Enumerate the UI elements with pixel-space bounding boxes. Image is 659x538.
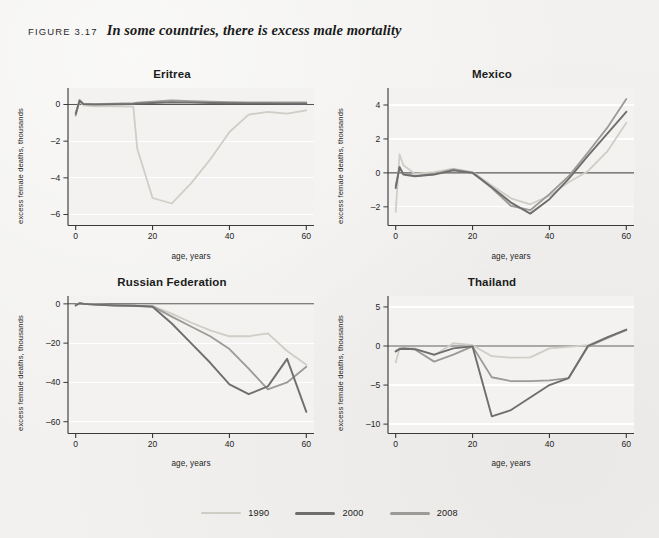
panel-thailand: Thailand excess female deaths, thousands… — [332, 270, 652, 478]
svg-text:20: 20 — [468, 231, 478, 241]
svg-text:0: 0 — [393, 439, 398, 449]
figure-container: FIGURE 3.17 In some countries, there is … — [0, 0, 659, 538]
panel-title: Thailand — [332, 276, 652, 288]
legend-item[interactable]: 1990 — [201, 508, 269, 518]
svg-text:40: 40 — [545, 231, 555, 241]
figure-number: FIGURE 3.17 — [28, 26, 98, 37]
svg-text:40: 40 — [545, 439, 555, 449]
svg-text:60: 60 — [302, 231, 312, 241]
svg-text:–5: –5 — [371, 379, 381, 389]
x-axis-label: age, years — [388, 459, 634, 468]
legend-label: 2008 — [437, 508, 458, 518]
figure-title: In some countries, there is excess male … — [107, 22, 402, 39]
x-axis-label: age, years — [388, 252, 634, 261]
x-axis-label: age, years — [68, 252, 314, 261]
svg-text:0: 0 — [376, 340, 381, 350]
figure-caption: FIGURE 3.17 In some countries, there is … — [28, 22, 402, 39]
svg-text:–40: –40 — [46, 377, 61, 387]
panel-title: Mexico — [332, 68, 652, 80]
svg-text:0: 0 — [376, 168, 381, 178]
svg-text:60: 60 — [302, 439, 312, 449]
svg-text:40: 40 — [225, 439, 235, 449]
svg-text:60: 60 — [622, 439, 632, 449]
legend-item[interactable]: 2008 — [390, 508, 458, 518]
svg-text:20: 20 — [468, 439, 478, 449]
svg-text:–6: –6 — [51, 209, 61, 219]
legend-label: 1990 — [248, 508, 269, 518]
panel-title: Russian Federation — [12, 276, 332, 288]
svg-text:0: 0 — [73, 231, 78, 241]
svg-text:0: 0 — [73, 439, 78, 449]
svg-text:20: 20 — [148, 231, 158, 241]
y-axis-label: excess female deaths, thousands — [336, 315, 345, 431]
plot-svg: 0–2–4–60204060 — [68, 88, 314, 226]
plot-area: 0–2–4–60204060 — [68, 88, 314, 226]
panel-eritrea: Eritrea excess female deaths, thousands … — [12, 62, 332, 270]
panel-title: Eritrea — [12, 68, 332, 80]
svg-text:60: 60 — [622, 231, 632, 241]
panel-russian-federation: Russian Federation excess female deaths,… — [12, 270, 332, 478]
svg-text:–2: –2 — [371, 202, 381, 212]
plot-area: 420–20204060 — [388, 88, 634, 226]
svg-text:0: 0 — [56, 99, 61, 109]
plot-area: 0–20–40–600204060 — [68, 296, 314, 434]
legend-line-swatch — [295, 512, 335, 515]
svg-text:–4: –4 — [51, 173, 61, 183]
svg-text:–60: –60 — [46, 416, 61, 426]
y-axis-label: excess female deaths, thousands — [16, 315, 25, 431]
legend-line-swatch — [201, 512, 241, 514]
legend-label: 2000 — [342, 508, 363, 518]
svg-text:0: 0 — [56, 298, 61, 308]
svg-text:0: 0 — [393, 231, 398, 241]
chart-legend: 1990 2000 2008 — [0, 508, 659, 518]
plot-svg: 50–5–100204060 — [388, 296, 634, 434]
panel-mexico: Mexico excess female deaths, thousands 4… — [332, 62, 652, 270]
svg-text:–20: –20 — [46, 337, 61, 347]
svg-text:4: 4 — [376, 100, 381, 110]
svg-text:5: 5 — [376, 301, 381, 311]
svg-text:2: 2 — [376, 134, 381, 144]
legend-item[interactable]: 2000 — [295, 508, 363, 518]
svg-text:–10: –10 — [366, 418, 381, 428]
y-axis-label: excess female deaths, thousands — [16, 108, 25, 224]
plot-svg: 0–20–40–600204060 — [68, 296, 314, 434]
plot-svg: 420–20204060 — [388, 88, 634, 226]
plot-area: 50–5–100204060 — [388, 296, 634, 434]
svg-text:–2: –2 — [51, 136, 61, 146]
legend-line-swatch — [390, 512, 430, 515]
y-axis-label: excess female deaths, thousands — [336, 108, 345, 224]
x-axis-label: age, years — [68, 459, 314, 468]
panel-grid: Eritrea excess female deaths, thousands … — [12, 62, 652, 477]
svg-text:40: 40 — [225, 231, 235, 241]
svg-text:20: 20 — [148, 439, 158, 449]
